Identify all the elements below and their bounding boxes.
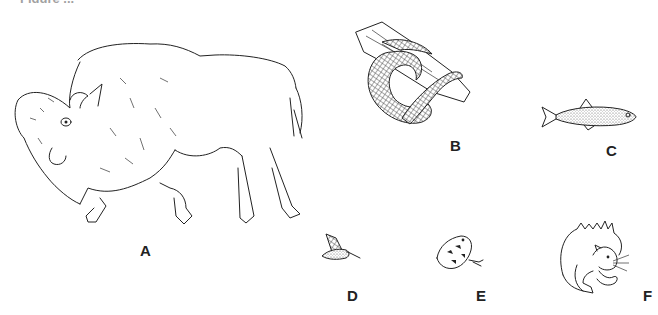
label-d: D — [347, 288, 358, 303]
label-a: A — [140, 243, 151, 258]
snake-illustration — [352, 22, 472, 137]
label-f: F — [643, 288, 652, 303]
label-b: B — [450, 138, 461, 153]
hummingbird-illustration — [318, 232, 363, 262]
figure-caption-clipped: Figure ... — [20, 0, 74, 3]
squirrel-illustration — [553, 215, 633, 295]
fish-illustration — [540, 97, 640, 132]
label-c: C — [606, 143, 617, 158]
bison-illustration — [10, 38, 310, 228]
frog-illustration — [433, 232, 483, 272]
label-e: E — [476, 288, 486, 303]
